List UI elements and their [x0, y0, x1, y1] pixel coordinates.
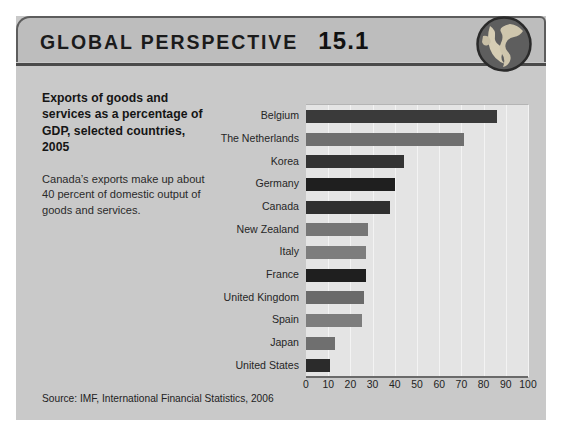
bar-row — [306, 286, 528, 309]
category-label: Korea — [206, 149, 304, 172]
bar — [306, 246, 366, 259]
category-label: United Kingdom — [206, 285, 304, 308]
bar-row — [306, 196, 528, 219]
bar — [306, 337, 335, 350]
source-note: Source: IMF, International Financial Sta… — [42, 393, 274, 404]
bar-row — [306, 241, 528, 264]
category-label: France — [206, 263, 304, 286]
bar-row — [306, 264, 528, 287]
bar — [306, 269, 366, 282]
tick-label: 80 — [478, 379, 490, 390]
caption-body: Canada’s exports make up about 40 percen… — [42, 172, 207, 219]
tick-label: 40 — [389, 379, 401, 390]
bar — [306, 291, 364, 304]
plot-area — [306, 104, 528, 377]
bar — [306, 178, 395, 191]
category-label: The Netherlands — [206, 127, 304, 150]
header-divider — [16, 63, 546, 66]
bar — [306, 201, 390, 214]
tick-label: 90 — [500, 379, 512, 390]
tick-label: 60 — [433, 379, 445, 390]
bar — [306, 223, 368, 236]
tick-label: 100 — [519, 379, 536, 390]
caption-block: Exports of goods and services as a perce… — [42, 90, 207, 218]
page-title: GLOBAL PERSPECTIVE — [40, 31, 298, 54]
gridline — [528, 105, 529, 377]
globe-icon — [474, 14, 534, 74]
value-axis-ticks: 0102030405060708090100 — [306, 378, 528, 394]
category-label: New Zealand — [206, 217, 304, 240]
global-perspective-card: GLOBAL PERSPECTIVE 15.1 Exports of goods… — [16, 16, 546, 420]
bar-row — [306, 218, 528, 241]
bar-row — [306, 354, 528, 377]
caption-heading: Exports of goods and services as a perce… — [42, 90, 207, 156]
bar — [306, 359, 330, 372]
header-title-group: GLOBAL PERSPECTIVE 15.1 — [40, 27, 370, 55]
category-axis: BelgiumThe NetherlandsKoreaGermanyCanada… — [206, 104, 304, 376]
category-label: Canada — [206, 195, 304, 218]
tick-label: 10 — [322, 379, 334, 390]
bar — [306, 314, 362, 327]
bar-chart: BelgiumThe NetherlandsKoreaGermanyCanada… — [206, 104, 531, 386]
category-label: Italy — [206, 240, 304, 263]
bar-row — [306, 309, 528, 332]
bar-row — [306, 150, 528, 173]
bar-row — [306, 105, 528, 128]
category-label: Spain — [206, 308, 304, 331]
tick-label: 20 — [345, 379, 357, 390]
tick-label: 50 — [411, 379, 423, 390]
category-label: Belgium — [206, 104, 304, 127]
bar-row — [306, 128, 528, 151]
category-label: United States — [206, 353, 304, 376]
category-label: Germany — [206, 172, 304, 195]
bar-row — [306, 173, 528, 196]
exhibit-number: 15.1 — [318, 27, 370, 55]
card-header: GLOBAL PERSPECTIVE 15.1 — [16, 16, 546, 62]
tick-label: 0 — [303, 379, 309, 390]
bar — [306, 155, 404, 168]
bar — [306, 133, 464, 146]
tick-label: 30 — [367, 379, 379, 390]
bar-series — [306, 105, 528, 377]
category-label: Japan — [206, 331, 304, 354]
bar-row — [306, 332, 528, 355]
bar — [306, 110, 497, 123]
tick-label: 70 — [456, 379, 468, 390]
